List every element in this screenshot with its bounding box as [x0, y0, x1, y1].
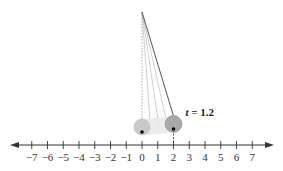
tick-label: −1 — [120, 151, 132, 163]
tick-label: 4 — [202, 151, 208, 163]
pendulum-string — [142, 12, 174, 116]
tick-label: 1 — [155, 151, 161, 163]
tick-label: −5 — [57, 151, 69, 163]
left-arrow-icon — [10, 142, 19, 148]
tick-label: 6 — [234, 151, 240, 163]
time-label: t = 1.2 — [186, 106, 215, 118]
rest-ball-center-dot — [140, 130, 144, 134]
tick-label: −7 — [26, 151, 38, 163]
ghost-pendulum-positions — [142, 12, 174, 134]
tick-label: 2 — [171, 151, 177, 163]
ghost-string — [142, 12, 158, 118]
tick-label: −6 — [42, 151, 54, 163]
time-value: = 1.2 — [189, 106, 215, 118]
tick-label: 3 — [187, 151, 193, 163]
tick-label: 5 — [218, 151, 224, 163]
pendulum-diagram: t = 1.2 −7−6−5−4−3−2−101234567 — [0, 0, 283, 171]
tick-label: 0 — [139, 151, 145, 163]
tick-label: −2 — [105, 151, 117, 163]
tick-label: −4 — [73, 151, 85, 163]
right-arrow-icon — [265, 142, 274, 148]
tick-label: −3 — [89, 151, 101, 163]
number-line: −7−6−5−4−3−2−101234567 — [10, 141, 274, 163]
tick-label: 7 — [250, 151, 256, 163]
